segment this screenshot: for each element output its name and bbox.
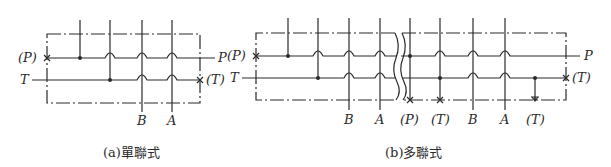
caption-b: (b)多聯式 (385, 145, 442, 160)
break-line (401, 33, 407, 100)
t-line-b-right (402, 73, 566, 78)
label-t-port: (T) (526, 112, 545, 127)
label-b: B (136, 113, 147, 128)
diagram-a: (P) P T (T) B A (a)單聯式 (18, 20, 227, 160)
label-a: A (166, 113, 176, 128)
label-t-left: T (230, 70, 240, 85)
label-t-left: T (20, 72, 30, 87)
p-line-b-left (256, 51, 397, 56)
label-b: B (467, 112, 478, 127)
label-a: A (374, 112, 384, 127)
caption-a: (a)單聯式 (103, 145, 160, 160)
break-line (394, 33, 400, 100)
p-line-a (47, 53, 215, 58)
label-t-port-right: (T) (572, 70, 591, 85)
junction-dot (316, 76, 320, 80)
junction-dot (108, 78, 112, 82)
body-outline-b-right (402, 33, 566, 100)
p-line-b-right (401, 51, 580, 56)
label-p-port: (P) (400, 112, 419, 127)
label-p-port-left: (P) (18, 50, 37, 65)
junction-dot (438, 76, 442, 80)
label-a: A (499, 112, 509, 127)
body-outline-b-left (256, 33, 395, 100)
label-p-right: P (583, 48, 593, 63)
label-p-port-left: (P) (227, 48, 246, 63)
diagram-b: (P) P T (T) B A (P) (T) B A (T) (b)多聯式 (227, 18, 593, 160)
label-p-right: P (217, 50, 227, 65)
junction-dot (78, 56, 82, 60)
junction-dot (533, 76, 537, 80)
junction-dot (286, 54, 290, 58)
body-outline-a (47, 34, 200, 103)
junction-dot (408, 54, 412, 58)
label-t-port-right: (T) (206, 72, 225, 87)
hydraulic-manifold-diagram: (P) P T (T) B A (a)單聯式 (0, 0, 611, 167)
label-b: B (343, 112, 354, 127)
t-line-a (32, 75, 200, 80)
label-t-port: (T) (431, 112, 450, 127)
